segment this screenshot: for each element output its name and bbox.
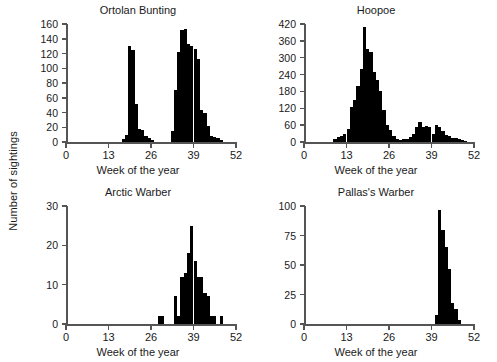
- y-axis-tick: [300, 235, 305, 237]
- y-axis-tick: [62, 38, 67, 40]
- y-axis-tick: [62, 53, 67, 55]
- y-axis-tick: [300, 40, 305, 42]
- x-axis-tick-label: 0: [46, 150, 86, 161]
- x-axis-tick: [388, 325, 390, 330]
- x-axis-tick-label: 26: [131, 332, 171, 343]
- x-axis-tick: [431, 143, 433, 148]
- y-axis-tick-label: 300: [278, 53, 296, 64]
- y-axis-tick-label: 20: [46, 122, 58, 133]
- x-axis-tick-label: 39: [412, 332, 452, 343]
- x-axis-tick: [473, 325, 475, 330]
- panel-hoopoe: Hoopoe 060120180240300360420013263952 We…: [262, 4, 490, 181]
- y-axis-tick-label: 80: [46, 78, 58, 89]
- x-axis-tick-label: 52: [454, 150, 494, 161]
- histogram-bars: [66, 24, 236, 142]
- histogram-bar: [161, 316, 164, 324]
- x-axis-tick-label: 0: [284, 332, 324, 343]
- plot-area: 0255075100013263952: [304, 206, 474, 324]
- x-axis-tick-label: 0: [284, 150, 324, 161]
- y-axis-tick-label: 0: [52, 137, 58, 148]
- x-axis-tick: [388, 143, 390, 148]
- y-axis-tick-label: 20: [46, 240, 58, 251]
- y-axis-tick-label: 180: [278, 86, 296, 97]
- x-axis-tick: [303, 325, 305, 330]
- y-axis-tick: [62, 245, 67, 247]
- x-axis-tick: [346, 143, 348, 148]
- x-axis-tick: [108, 143, 110, 148]
- y-axis-tick: [300, 57, 305, 59]
- panel-ortolan-bunting: Ortolan Bunting 020406080100120140160013…: [24, 4, 252, 181]
- panel-x-axis-label: Week of the year: [24, 164, 252, 176]
- x-axis-tick: [431, 325, 433, 330]
- y-axis-tick-label: 240: [278, 70, 296, 81]
- histogram-bars: [66, 206, 236, 324]
- y-axis-tick-label: 360: [278, 36, 296, 47]
- y-axis-tick-label: 60: [284, 120, 296, 131]
- x-axis-tick: [193, 143, 195, 148]
- x-axis-tick: [65, 325, 67, 330]
- panel-pallass-warbler: Pallas's Warber 0255075100013263952 Week…: [262, 186, 490, 362]
- y-axis-tick-label: 120: [40, 49, 58, 60]
- y-axis-tick: [300, 124, 305, 126]
- x-axis-tick-label: 13: [327, 332, 367, 343]
- histogram-bars: [304, 206, 474, 324]
- histogram-bars: [304, 24, 474, 142]
- x-axis-tick: [193, 325, 195, 330]
- y-axis-tick: [62, 284, 67, 286]
- panel-title: Hoopoe: [262, 4, 490, 16]
- x-axis-tick: [150, 143, 152, 148]
- y-axis-tick-label: 60: [46, 93, 58, 104]
- x-axis-tick-label: 0: [46, 332, 86, 343]
- plot-area: 060120180240300360420013263952: [304, 24, 474, 142]
- x-axis-tick: [150, 325, 152, 330]
- y-axis-tick-label: 0: [52, 319, 58, 330]
- x-axis-tick-label: 39: [174, 150, 214, 161]
- y-axis-tick: [62, 205, 67, 207]
- x-axis-tick-label: 39: [174, 332, 214, 343]
- x-axis-tick-label: 26: [131, 150, 171, 161]
- x-axis-tick: [473, 143, 475, 148]
- x-axis-tick-label: 13: [327, 150, 367, 161]
- histogram-bar: [220, 316, 223, 324]
- y-axis-tick: [62, 23, 67, 25]
- x-axis-tick-label: 52: [216, 150, 256, 161]
- y-axis-tick-label: 75: [284, 231, 296, 242]
- y-axis-tick-label: 30: [46, 201, 58, 212]
- y-axis-tick-label: 10: [46, 280, 58, 291]
- figure-y-axis-label: Number of sightings: [2, 0, 24, 362]
- histogram-bar: [213, 316, 216, 324]
- x-axis-tick-label: 52: [454, 332, 494, 343]
- y-axis-tick: [300, 294, 305, 296]
- x-axis-tick-label: 52: [216, 332, 256, 343]
- y-axis-tick: [300, 205, 305, 207]
- y-axis-line: [66, 206, 68, 325]
- y-axis-tick-label: 100: [40, 63, 58, 74]
- figure-panel-grid: Number of sightings Ortolan Bunting 0204…: [0, 0, 497, 362]
- y-axis-tick-label: 25: [284, 290, 296, 301]
- y-axis-tick-label: 0: [290, 319, 296, 330]
- panel-x-axis-label: Week of the year: [24, 346, 252, 358]
- y-axis-tick: [300, 74, 305, 76]
- y-axis-tick-label: 40: [46, 108, 58, 119]
- y-axis-tick: [62, 68, 67, 70]
- y-axis-tick-label: 160: [40, 19, 58, 30]
- panel-arctic-warbler: Arctic Warber 0102030013263952 Week of t…: [24, 186, 252, 362]
- panel-x-axis-label: Week of the year: [262, 346, 490, 358]
- x-axis-tick: [108, 325, 110, 330]
- y-axis-tick-label: 50: [284, 260, 296, 271]
- x-axis-tick-label: 26: [369, 150, 409, 161]
- y-axis-tick-label: 120: [278, 103, 296, 114]
- y-axis-tick: [300, 91, 305, 93]
- x-axis-tick-label: 13: [89, 150, 129, 161]
- panel-x-axis-label: Week of the year: [262, 164, 490, 176]
- x-axis-tick-label: 39: [412, 150, 452, 161]
- y-axis-tick: [62, 97, 67, 99]
- panel-title: Arctic Warber: [24, 186, 252, 198]
- x-axis-tick: [303, 143, 305, 148]
- x-axis-tick-label: 13: [89, 332, 129, 343]
- y-axis-tick-label: 420: [278, 19, 296, 30]
- x-axis-tick: [235, 325, 237, 330]
- plot-area: 020406080100120140160013263952: [66, 24, 236, 142]
- figure-y-axis-label-text: Number of sightings: [7, 131, 19, 231]
- y-axis-tick: [300, 108, 305, 110]
